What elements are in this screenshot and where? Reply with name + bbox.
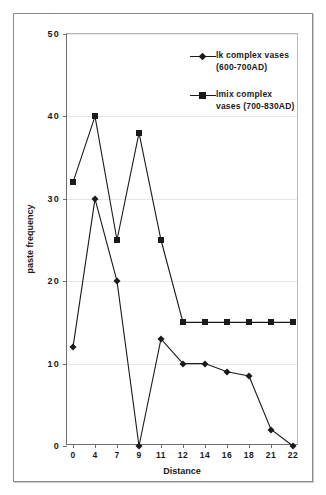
y-tick-label: 30 (48, 194, 60, 204)
data-point (246, 319, 252, 325)
x-tick-label: 9 (136, 450, 141, 460)
x-tick-label: 22 (288, 450, 298, 460)
legend-entry-1: lmix complex vases (700-830AD) (190, 89, 296, 112)
data-point (92, 113, 98, 119)
x-tick-label: 14 (200, 450, 210, 460)
series-line-1 (73, 116, 293, 322)
y-axis-title-label: paste frequency (25, 204, 35, 273)
x-tick-label: 18 (244, 450, 254, 460)
y-tick-label: 40 (48, 111, 60, 121)
data-point (224, 319, 230, 325)
x-tick-label: 11 (156, 450, 166, 460)
x-tick-label: 7 (114, 450, 119, 460)
data-point (268, 319, 274, 325)
data-point (136, 130, 142, 136)
y-tick-label: 20 (48, 276, 60, 286)
legend-label: lk complex vases (600-700AD) (216, 50, 296, 73)
y-axis-title: paste frequency (23, 33, 37, 445)
chart-area: 01020304050 047911121416182122 paste fre… (0, 0, 326, 495)
legend-marker-square-icon (190, 90, 216, 101)
y-tick-mark (63, 446, 67, 447)
data-point (114, 237, 120, 243)
x-tick-label: 21 (266, 450, 276, 460)
x-tick-label: 4 (92, 450, 97, 460)
legend-label: lmix complex vases (700-830AD) (216, 89, 296, 112)
x-tick-label: 0 (70, 450, 75, 460)
data-point (158, 237, 164, 243)
data-point (202, 319, 208, 325)
y-tick-label: 0 (54, 441, 60, 451)
x-tick-label: 12 (178, 450, 188, 460)
data-point (180, 319, 186, 325)
legend-entry-0: lk complex vases (600-700AD) (190, 50, 296, 73)
x-tick-label: 16 (222, 450, 232, 460)
y-tick-label: 10 (48, 359, 60, 369)
chart-legend: lk complex vases (600-700AD)lmix complex… (190, 50, 296, 128)
x-axis-title: Distance (66, 466, 298, 476)
data-point (290, 319, 296, 325)
y-tick-label: 50 (48, 29, 60, 39)
data-point (70, 179, 76, 185)
x-axis-title-label: Distance (163, 466, 201, 476)
legend-marker-diamond-icon (190, 51, 216, 62)
